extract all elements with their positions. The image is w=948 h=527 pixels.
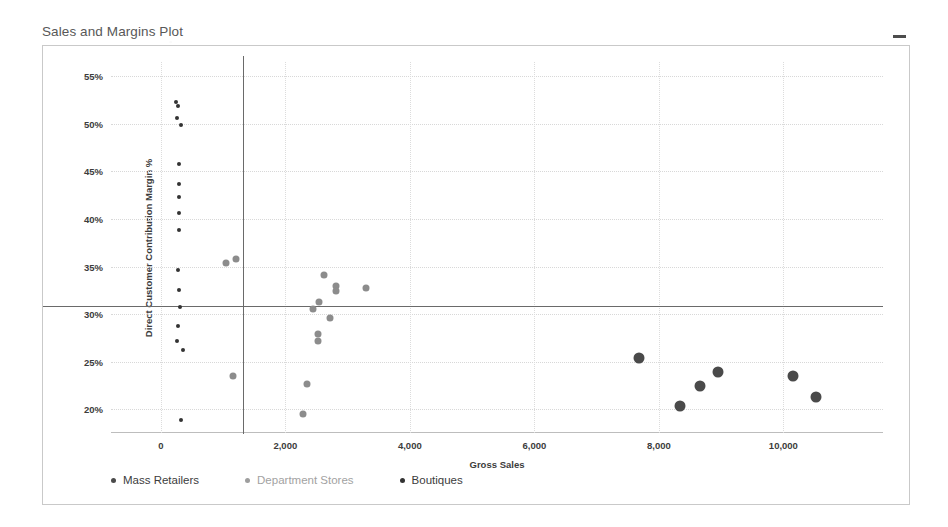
data-point[interactable] <box>178 305 182 309</box>
minimize-icon[interactable] <box>893 31 906 40</box>
data-point[interactable] <box>176 104 180 108</box>
data-point[interactable] <box>633 352 644 363</box>
gridline-horizontal <box>111 171 883 172</box>
data-point[interactable] <box>177 195 181 199</box>
legend-swatch-icon <box>245 478 250 483</box>
scatter-plot-area[interactable]: Gross Sales Direct Customer Contribution… <box>111 62 883 433</box>
x-axis-tick-label: 10,000 <box>769 440 798 451</box>
gridline-vertical <box>783 62 784 433</box>
data-point[interactable] <box>177 182 181 186</box>
data-point[interactable] <box>179 418 183 422</box>
gridline-vertical <box>161 62 162 433</box>
gridline-vertical <box>659 62 660 433</box>
x-axis-tick-label: 6,000 <box>522 440 546 451</box>
x-axis-tick-label: 4,000 <box>398 440 422 451</box>
vertical-reference-line <box>243 56 244 434</box>
data-point[interactable] <box>675 401 686 412</box>
data-point[interactable] <box>232 255 239 262</box>
data-point[interactable] <box>320 272 327 279</box>
data-point[interactable] <box>810 391 821 402</box>
gridline-horizontal <box>111 409 883 410</box>
x-axis-tick-label: 8,000 <box>647 440 671 451</box>
page-title: Sales and Margins Plot <box>42 24 183 39</box>
data-point[interactable] <box>177 211 181 215</box>
legend-item-mass-retailers[interactable]: Mass Retailers <box>111 474 199 486</box>
y-axis-tick-label: 55% <box>84 71 103 82</box>
gridline-horizontal <box>111 124 883 125</box>
legend-item-department-stores[interactable]: Department Stores <box>245 474 354 486</box>
gridline-vertical <box>534 62 535 433</box>
minimize-icon-bar <box>893 35 906 38</box>
gridline-horizontal <box>111 219 883 220</box>
legend-label: Mass Retailers <box>123 474 199 486</box>
legend-label: Department Stores <box>257 474 354 486</box>
y-axis-title: Direct Customer Contribution Margin % <box>143 158 154 336</box>
x-axis-line <box>111 432 883 433</box>
data-point[interactable] <box>177 162 181 166</box>
y-axis-tick-label: 45% <box>84 166 103 177</box>
legend-swatch-icon <box>400 478 405 483</box>
gridline-vertical <box>285 62 286 433</box>
x-axis-title: Gross Sales <box>111 459 883 470</box>
gridline-horizontal <box>111 267 883 268</box>
y-axis-tick-label: 30% <box>84 309 103 320</box>
data-point[interactable] <box>179 123 183 127</box>
data-point[interactable] <box>787 370 798 381</box>
data-point[interactable] <box>310 306 317 313</box>
gridline-horizontal <box>111 76 883 77</box>
data-point[interactable] <box>713 367 724 378</box>
data-point[interactable] <box>314 337 321 344</box>
y-axis-tick-label: 35% <box>84 261 103 272</box>
y-axis-tick-label: 50% <box>84 118 103 129</box>
y-axis-tick-label: 40% <box>84 213 103 224</box>
legend-item-boutiques[interactable]: Boutiques <box>400 474 463 486</box>
legend-label: Boutiques <box>412 474 463 486</box>
data-point[interactable] <box>181 348 185 352</box>
x-axis-tick-label: 2,000 <box>273 440 297 451</box>
data-point[interactable] <box>304 381 311 388</box>
gridline-horizontal <box>111 362 883 363</box>
legend-swatch-icon <box>111 478 116 483</box>
data-point[interactable] <box>230 372 237 379</box>
data-point[interactable] <box>175 339 179 343</box>
data-point[interactable] <box>175 116 179 120</box>
chart-frame: Gross Sales Direct Customer Contribution… <box>42 45 910 505</box>
gridline-horizontal <box>111 314 883 315</box>
y-axis-tick-label: 20% <box>84 404 103 415</box>
data-point[interactable] <box>223 259 230 266</box>
data-point[interactable] <box>333 288 340 295</box>
data-point[interactable] <box>315 298 322 305</box>
gridline-vertical <box>410 62 411 433</box>
data-point[interactable] <box>299 410 306 417</box>
chart-legend: Mass Retailers Department Stores Boutiqu… <box>111 474 463 486</box>
data-point[interactable] <box>177 288 181 292</box>
data-point[interactable] <box>327 314 334 321</box>
data-point[interactable] <box>176 324 180 328</box>
data-point[interactable] <box>176 268 180 272</box>
y-axis-tick-label: 25% <box>84 356 103 367</box>
x-axis-tick-label: 0 <box>158 440 163 451</box>
data-point[interactable] <box>363 285 370 292</box>
data-point[interactable] <box>177 228 181 232</box>
horizontal-reference-line <box>43 306 883 307</box>
data-point[interactable] <box>694 381 705 392</box>
